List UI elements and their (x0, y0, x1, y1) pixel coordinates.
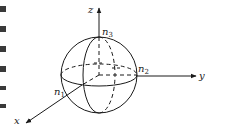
sphere-axes-diagram: z y x n3 n2 n1 (0, 0, 225, 130)
y-axis-label: y (198, 70, 205, 81)
z-axis-label: z (87, 4, 94, 15)
n3-subscript: 3 (108, 31, 112, 39)
n2-label: n2 (138, 63, 149, 76)
x-axis-hidden (82, 75, 99, 85)
n1-subscript: 1 (60, 91, 64, 99)
equator-front (61, 75, 137, 86)
x-axis-label: x (14, 115, 20, 126)
n2-subscript: 2 (144, 68, 148, 76)
meridian-front (83, 37, 99, 113)
